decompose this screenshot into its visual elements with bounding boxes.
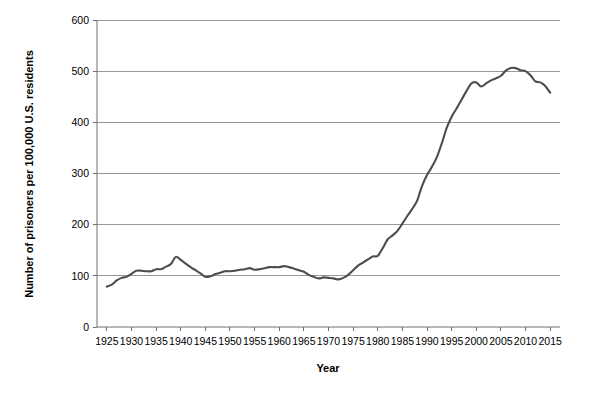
x-tick-label-2000: 2000 <box>465 335 489 347</box>
x-axis-tick-labels: 1925193019351940194519501955196019651970… <box>95 335 562 347</box>
x-tick-label-1990: 1990 <box>415 335 439 347</box>
y-tick-label-200: 200 <box>71 218 89 230</box>
x-tick-label-1935: 1935 <box>144 335 168 347</box>
y-tick-label-600: 600 <box>71 14 89 26</box>
y-tick-label-100: 100 <box>71 270 89 282</box>
line-chart: 0100200300400500600 19251930193519401945… <box>0 0 595 394</box>
y-tick-label-0: 0 <box>83 321 89 333</box>
x-tick-label-1930: 1930 <box>120 335 144 347</box>
x-axis-title: Year <box>316 362 340 374</box>
x-tick-label-1960: 1960 <box>268 335 292 347</box>
x-tick-label-2005: 2005 <box>489 335 513 347</box>
y-tick-label-400: 400 <box>71 116 89 128</box>
x-tick-label-2010: 2010 <box>514 335 538 347</box>
x-tick-label-1950: 1950 <box>218 335 242 347</box>
x-tick-label-1955: 1955 <box>243 335 267 347</box>
x-tick-label-1925: 1925 <box>95 335 119 347</box>
x-tick-label-1940: 1940 <box>169 335 193 347</box>
y-axis-title: Number of prisoners per 100,000 U.S. res… <box>23 50 35 298</box>
x-tick-label-1985: 1985 <box>391 335 415 347</box>
x-tick-label-1980: 1980 <box>366 335 390 347</box>
chart-container: 0100200300400500600 19251930193519401945… <box>0 0 595 394</box>
x-tick-label-2015: 2015 <box>538 335 562 347</box>
x-tick-label-1970: 1970 <box>317 335 341 347</box>
x-tick-label-1965: 1965 <box>292 335 316 347</box>
x-tick-label-1945: 1945 <box>194 335 218 347</box>
x-tick-label-1995: 1995 <box>440 335 464 347</box>
y-tick-label-300: 300 <box>71 167 89 179</box>
x-tick-label-1975: 1975 <box>341 335 365 347</box>
y-tick-label-500: 500 <box>71 65 89 77</box>
